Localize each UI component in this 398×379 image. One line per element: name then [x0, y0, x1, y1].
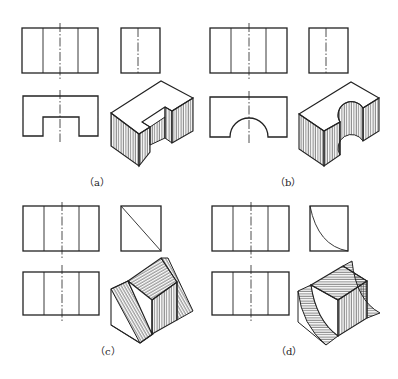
- panel-b: （b）: [210, 23, 379, 188]
- panel-a-side-view: [121, 28, 160, 73]
- panel-d-front-view: [212, 202, 289, 258]
- panel-d: （d）: [212, 202, 380, 357]
- panel-b-side-view: [309, 28, 348, 73]
- panel-b-isometric-view: [299, 82, 379, 166]
- panel-d-side-view: [310, 206, 348, 251]
- panel-d-label: （d）: [276, 346, 302, 357]
- panel-d-top-view: [212, 265, 289, 322]
- panel-a-top-view: [23, 90, 98, 142]
- panel-b-top-view: [210, 91, 287, 143]
- panel-a-isometric-view: [111, 81, 193, 166]
- panel-c: （c）: [23, 202, 193, 357]
- panel-c-side-view: [121, 206, 161, 251]
- panel-c-front-view: [23, 202, 99, 258]
- panel-b-label: （b）: [275, 177, 301, 188]
- panel-c-isometric-view: [111, 258, 193, 343]
- panel-b-front-view: [210, 23, 287, 80]
- panel-c-top-view: [23, 265, 99, 322]
- technical-drawing-figure: （a） （b）: [0, 0, 398, 379]
- panel-a-front-view: [22, 23, 98, 80]
- panel-a-label: （a）: [84, 177, 110, 188]
- panel-a: （a）: [22, 23, 193, 188]
- panel-d-isometric-view: [298, 261, 380, 345]
- panel-c-label: （c）: [95, 346, 121, 357]
